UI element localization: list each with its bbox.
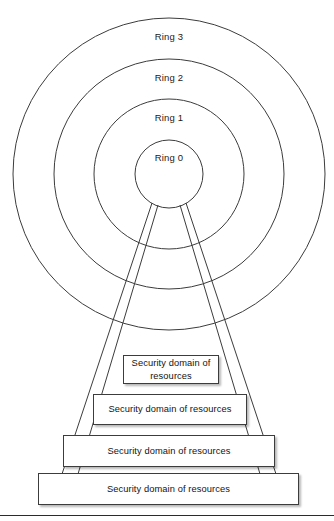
ring-3-circle: [13, 18, 325, 330]
cone-line-outer-left: [62, 203, 152, 474]
cone-line-outer-right: [186, 203, 276, 474]
cone-line-inner-left: [78, 205, 158, 474]
ring-2-circle: [54, 59, 284, 289]
security-domain-label: Security domain of resources: [104, 403, 235, 416]
page-footer-rule: [0, 515, 334, 516]
security-domain-box-2: Security domain of resources: [93, 394, 247, 425]
ring-2-label: Ring 2: [155, 72, 184, 83]
ring-1-label: Ring 1: [155, 112, 184, 123]
security-domain-label: Security domain of resources: [103, 483, 234, 496]
security-domain-box-4: Security domain of resources: [38, 473, 299, 505]
security-domain-label: Security domain of resources: [124, 357, 218, 383]
protection-rings-diagram: Ring 3 Ring 2 Ring 1 Ring 0 Security dom…: [0, 0, 334, 521]
cone-lines: [62, 203, 276, 474]
cone-line-inner-right: [180, 205, 260, 474]
security-domain-box-1: Security domain of resources: [123, 355, 219, 384]
ring-0-circle: [135, 140, 203, 208]
ring-circles: [13, 18, 325, 330]
ring-3-label: Ring 3: [155, 31, 184, 42]
ring-0-label: Ring 0: [155, 152, 184, 163]
security-domain-box-3: Security domain of resources: [63, 435, 275, 467]
security-domain-label: Security domain of resources: [103, 445, 234, 458]
